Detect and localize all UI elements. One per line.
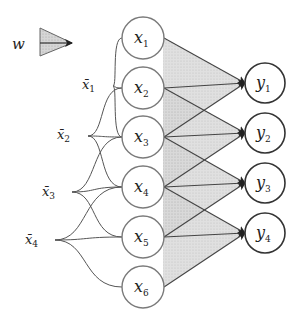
input-node-x6: x6 bbox=[122, 266, 164, 308]
window-bracket bbox=[88, 136, 122, 187]
window-bracket bbox=[113, 86, 122, 137]
input-node-x2: x2 bbox=[122, 67, 164, 109]
window-label: x̄1 bbox=[82, 77, 95, 94]
window-bracket bbox=[72, 137, 122, 192]
input-node-x1: x1 bbox=[122, 17, 164, 59]
output-node-y4: y4 bbox=[245, 213, 285, 253]
window-bracket bbox=[55, 240, 122, 287]
output-node-y2: y2 bbox=[245, 113, 285, 153]
window-label: x̄2 bbox=[57, 127, 70, 144]
output-node-y1: y1 bbox=[245, 63, 285, 103]
window-bracket bbox=[88, 136, 122, 137]
legend-triangle-icon bbox=[40, 28, 72, 56]
window-label: x̄3 bbox=[42, 184, 55, 201]
convolution-diagram: w x̄1x̄2x̄3x̄4 x1x2x3x4x5x6y1y2y3y4 bbox=[0, 0, 297, 318]
window-bracket bbox=[55, 187, 122, 240]
input-node-x5: x5 bbox=[122, 216, 164, 258]
input-node-x4: x4 bbox=[122, 166, 164, 208]
window-bracket bbox=[72, 192, 122, 237]
window-bracket bbox=[113, 38, 122, 86]
window-label: x̄4 bbox=[25, 232, 38, 249]
legend-weight: w bbox=[12, 28, 72, 56]
output-node-y3: y3 bbox=[245, 163, 285, 203]
window-brackets: x̄1x̄2x̄3x̄4 bbox=[25, 38, 122, 287]
input-node-x3: x3 bbox=[122, 116, 164, 158]
legend-label: w bbox=[12, 35, 25, 53]
kernel-shades bbox=[163, 38, 245, 287]
